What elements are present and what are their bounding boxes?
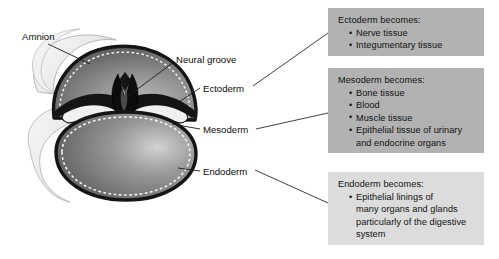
label-ectoderm: Ectoderm — [203, 83, 244, 94]
endoderm-item-list: Epithelial linings of many organs and gl… — [338, 191, 476, 241]
figure-canvas: Amnion Neural groove Ectoderm Mesoderm E… — [0, 0, 499, 259]
label-amnion: Amnion — [22, 31, 55, 42]
list-item: Integumentary tissue — [349, 39, 476, 51]
ectoderm-item-list: Nerve tissue Integumentary tissue — [338, 27, 476, 52]
mesoderm-box-heading: Mesoderm becomes: — [338, 74, 476, 86]
ectoderm-info-box: Ectoderm becomes: Nerve tissue Integumen… — [328, 8, 484, 56]
label-mesoderm: Mesoderm — [203, 124, 248, 135]
list-item: Muscle tissue — [349, 112, 476, 124]
mesoderm-info-box: Mesoderm becomes: Bone tissue Blood Musc… — [328, 68, 484, 153]
list-item: Epithelial tissue of urinary and endocri… — [349, 124, 476, 149]
label-neural-groove: Neural groove — [176, 54, 236, 65]
connector-ectoderm-box — [253, 33, 328, 86]
connector-mesoderm-box — [256, 113, 328, 129]
label-endoderm: Endoderm — [203, 166, 247, 177]
connector-endoderm-box — [255, 170, 328, 203]
box-connectors — [253, 33, 328, 203]
list-item: Nerve tissue — [349, 27, 476, 39]
list-item: Bone tissue — [349, 87, 476, 99]
endoderm-info-box: Endoderm becomes: Epithelial linings of … — [328, 172, 484, 245]
mesoderm-item-list: Bone tissue Blood Muscle tissue Epitheli… — [338, 87, 476, 149]
endoderm-box-heading: Endoderm becomes: — [338, 178, 476, 190]
ectoderm-box-heading: Ectoderm becomes: — [338, 14, 476, 26]
list-item: Epithelial linings of many organs and gl… — [349, 191, 476, 241]
yolk-sac — [56, 112, 196, 200]
list-item: Blood — [349, 99, 476, 111]
